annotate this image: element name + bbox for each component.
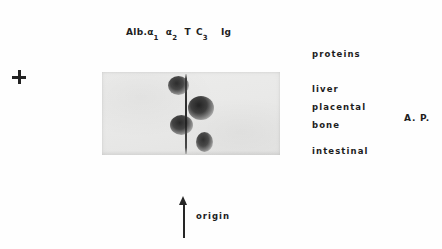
lane-legend: Alb.α1α2TC3Ig (126, 27, 231, 40)
electrophoresis-figure: Alb.α1α2TC3Ig proteins liver placental b… (0, 0, 442, 249)
lane-alb-base: Alb. (126, 27, 147, 37)
lane-label-alpha1: α1 (147, 27, 159, 40)
origin-label: origin (196, 211, 230, 221)
gel-spot-intestinal (196, 132, 213, 152)
gel-spot-bone (170, 115, 193, 135)
annotation-bone: bone (312, 120, 340, 130)
lane-label-alpha2: α2 (166, 27, 178, 40)
annotation-proteins: proteins (312, 49, 361, 59)
lane-alpha2-sub: 2 (172, 34, 177, 42)
annotation-liver: liver (312, 84, 339, 94)
gel-spot-placental (188, 96, 214, 120)
lane-alpha1-sub: 1 (154, 34, 159, 42)
arrow-shaft (183, 204, 185, 238)
lane-label-t: T (184, 27, 190, 37)
lane-alpha1-base: α (147, 27, 153, 37)
lane-c3-base: C (196, 27, 203, 37)
annotation-intestinal: intestinal (312, 146, 369, 156)
gel-spot-liver (168, 76, 189, 95)
origin-marker: origin (176, 196, 256, 240)
gel-panel (102, 72, 280, 155)
lane-c3-sub: 3 (203, 34, 208, 42)
annotation-placental: placental (312, 102, 366, 112)
anode-plus-icon (12, 70, 26, 84)
lane-label-c3: C3 (196, 27, 208, 40)
lane-t-base: T (184, 27, 190, 37)
annotation-alkaline-phosphatase-group: A. P. (404, 113, 430, 123)
lane-label-alb: Alb. (126, 27, 147, 37)
lane-ig-base: Ig (221, 27, 231, 37)
lane-label-ig: Ig (221, 27, 231, 37)
